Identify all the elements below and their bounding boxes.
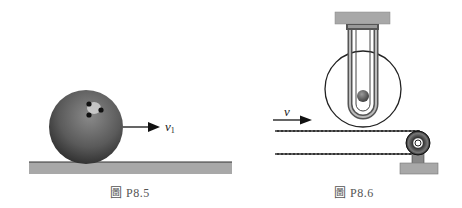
caption-p8-5: 圖 P8.5 [110, 183, 150, 201]
caption-p8-6: 圖 P8.6 [334, 183, 374, 201]
u-tube [350, 30, 376, 117]
figure-p8-6: v [273, 12, 438, 174]
finger-hole [86, 112, 91, 117]
ceiling-support [335, 12, 390, 30]
diagram-canvas: v1 [0, 0, 462, 208]
pulley [400, 131, 438, 174]
conveyor-belt [275, 131, 420, 154]
bowling-ball [49, 90, 123, 164]
velocity-arrow-v1 [123, 122, 160, 132]
small-ball [357, 90, 369, 102]
finger-hole [86, 101, 91, 106]
velocity-arrow-v [273, 116, 312, 125]
figure-p8-5: v1 [29, 90, 232, 174]
finger-hole [98, 107, 103, 112]
ground-surface [29, 162, 232, 174]
velocity-label-v: v [284, 104, 290, 119]
velocity-label-v1: v1 [165, 119, 175, 135]
